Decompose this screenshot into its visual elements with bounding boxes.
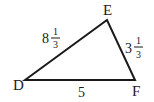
side-ef-numerator: 1 — [136, 35, 141, 46]
triangle-def — [25, 20, 135, 80]
side-label-de: 8 1 3 — [42, 26, 60, 50]
side-de-denominator: 3 — [53, 39, 58, 50]
side-label-ef: 3 1 3 — [125, 35, 143, 60]
vertex-label-e: E — [103, 2, 112, 18]
side-label-df: 5 — [78, 85, 85, 100]
side-de-numerator: 1 — [53, 26, 58, 37]
side-de-whole: 8 — [42, 31, 49, 46]
side-ef-whole: 3 — [125, 41, 132, 56]
side-ef-denominator: 3 — [136, 49, 141, 60]
vertex-label-d: D — [13, 77, 24, 93]
vertex-label-f: F — [132, 83, 140, 99]
triangle-diagram: D E F 8 1 3 3 1 3 5 — [0, 0, 154, 102]
